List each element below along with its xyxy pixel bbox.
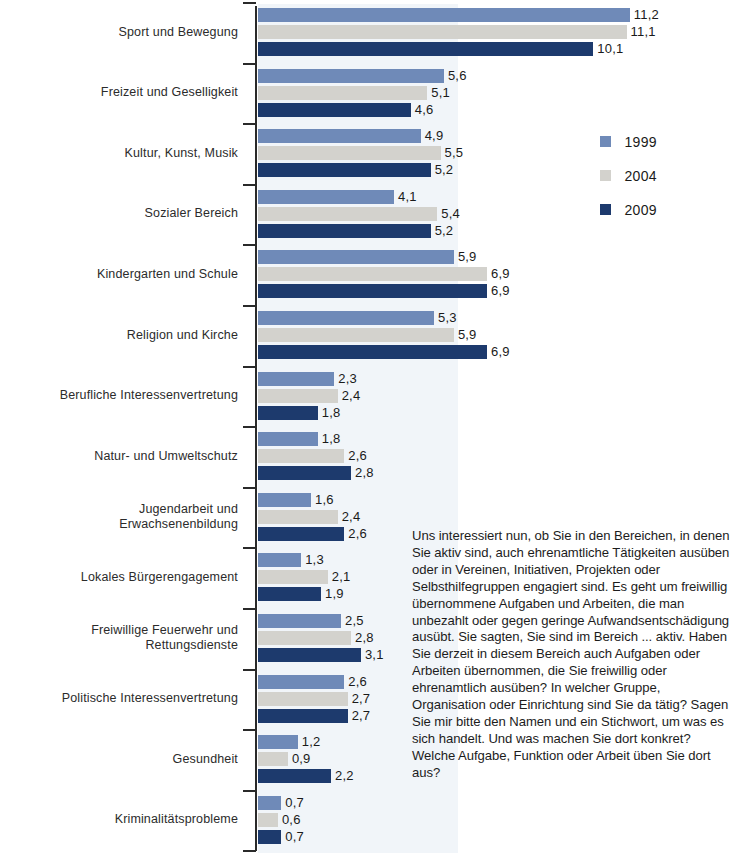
bar-2004[interactable] bbox=[258, 328, 454, 342]
bar-1999[interactable] bbox=[258, 190, 394, 204]
category-label: Kultur, Kunst, Musik bbox=[0, 146, 238, 161]
bar-line: 0,7 bbox=[258, 796, 304, 810]
bar-2009[interactable] bbox=[258, 587, 321, 601]
bar-2004[interactable] bbox=[258, 631, 351, 645]
bar-2004[interactable] bbox=[258, 25, 627, 39]
bar-value-label: 5,2 bbox=[431, 224, 454, 238]
bar-2009[interactable] bbox=[258, 103, 411, 117]
bar-line: 2,1 bbox=[258, 570, 350, 584]
bar-line: 6,9 bbox=[258, 284, 510, 298]
bar-value-label: 2,7 bbox=[348, 709, 371, 723]
bar-value-label: 5,9 bbox=[454, 328, 477, 342]
bar-value-label: 2,6 bbox=[344, 675, 367, 689]
bar-1999[interactable] bbox=[258, 675, 344, 689]
bar-2004[interactable] bbox=[258, 752, 288, 766]
bar-value-label: 2,3 bbox=[334, 372, 357, 386]
bar-line: 5,9 bbox=[258, 328, 510, 342]
legend-label-2009: 2009 bbox=[624, 202, 656, 218]
bar-group: 1,62,42,6 bbox=[258, 493, 367, 544]
axis-tick bbox=[243, 669, 256, 671]
legend-item-2004[interactable]: 2004 bbox=[600, 166, 657, 200]
bar-2004[interactable] bbox=[258, 207, 437, 221]
legend-label-1999: 1999 bbox=[624, 134, 656, 150]
bar-value-label: 2,6 bbox=[344, 527, 367, 541]
bar-line: 2,7 bbox=[258, 709, 370, 723]
bar-value-label: 5,3 bbox=[434, 311, 457, 325]
bar-value-label: 1,3 bbox=[301, 553, 324, 567]
bar-1999[interactable] bbox=[258, 432, 318, 446]
bar-group: 5,65,14,6 bbox=[258, 69, 467, 120]
bar-2004[interactable] bbox=[258, 570, 328, 584]
bar-line: 5,2 bbox=[258, 224, 460, 238]
axis-tick bbox=[243, 184, 256, 186]
bar-2009[interactable] bbox=[258, 224, 431, 238]
bar-group: 11,211,110,1 bbox=[258, 8, 659, 59]
bar-2004[interactable] bbox=[258, 146, 441, 160]
bar-2009[interactable] bbox=[258, 163, 431, 177]
bar-1999[interactable] bbox=[258, 250, 454, 264]
bar-value-label: 0,9 bbox=[288, 752, 311, 766]
category-label: Sozialer Bereich bbox=[0, 206, 238, 221]
category-label-line: Sport und Bewegung bbox=[0, 25, 238, 40]
bar-value-label: 4,1 bbox=[394, 190, 417, 204]
bar-line: 0,7 bbox=[258, 830, 304, 844]
bar-value-label: 0,6 bbox=[278, 813, 301, 827]
bar-line: 2,4 bbox=[258, 510, 367, 524]
bar-2009[interactable] bbox=[258, 466, 351, 480]
category-label-line: Berufliche Interessenvertretung bbox=[0, 388, 238, 403]
bar-group: 2,62,72,7 bbox=[258, 675, 370, 726]
bar-1999[interactable] bbox=[258, 553, 301, 567]
bar-group: 5,35,96,9 bbox=[258, 311, 510, 362]
bar-value-label: 5,2 bbox=[431, 163, 454, 177]
category-label-line: Freiwillige Feuerwehr und bbox=[0, 623, 238, 638]
bar-2009[interactable] bbox=[258, 345, 487, 359]
bar-2009[interactable] bbox=[258, 709, 348, 723]
bar-1999[interactable] bbox=[258, 129, 421, 143]
legend-item-2009[interactable]: 2009 bbox=[600, 200, 657, 234]
bar-2004[interactable] bbox=[258, 692, 348, 706]
axis-tick bbox=[243, 547, 256, 549]
bar-group: 2,32,41,8 bbox=[258, 372, 360, 423]
bar-line: 4,9 bbox=[258, 129, 463, 143]
bar-1999[interactable] bbox=[258, 614, 341, 628]
axis-tick bbox=[243, 790, 256, 792]
bar-1999[interactable] bbox=[258, 493, 311, 507]
bar-1999[interactable] bbox=[258, 796, 281, 810]
bar-2004[interactable] bbox=[258, 813, 278, 827]
bar-line: 2,6 bbox=[258, 449, 374, 463]
bar-2004[interactable] bbox=[258, 86, 427, 100]
bar-2004[interactable] bbox=[258, 510, 338, 524]
bar-line: 0,6 bbox=[258, 813, 304, 827]
bar-line: 1,9 bbox=[258, 587, 350, 601]
bar-1999[interactable] bbox=[258, 311, 434, 325]
bar-line: 5,3 bbox=[258, 311, 510, 325]
bar-value-label: 1,6 bbox=[311, 493, 334, 507]
category-label-line: Jugendarbeit und bbox=[0, 502, 238, 517]
bar-1999[interactable] bbox=[258, 735, 298, 749]
bar-2004[interactable] bbox=[258, 449, 344, 463]
bar-value-label: 5,9 bbox=[454, 250, 477, 264]
bar-2009[interactable] bbox=[258, 284, 487, 298]
bar-2009[interactable] bbox=[258, 769, 331, 783]
bar-2004[interactable] bbox=[258, 267, 487, 281]
bar-1999[interactable] bbox=[258, 8, 630, 22]
bar-2009[interactable] bbox=[258, 830, 281, 844]
category-label-line: Politische Interessenvertretung bbox=[0, 691, 238, 706]
bar-value-label: 1,8 bbox=[318, 432, 341, 446]
legend-swatch-2009 bbox=[600, 204, 611, 215]
bar-1999[interactable] bbox=[258, 372, 334, 386]
bar-2009[interactable] bbox=[258, 42, 593, 56]
bar-2009[interactable] bbox=[258, 406, 318, 420]
bar-2009[interactable] bbox=[258, 648, 361, 662]
axis-tick bbox=[243, 487, 256, 489]
bar-1999[interactable] bbox=[258, 69, 444, 83]
bar-value-label: 5,4 bbox=[437, 207, 460, 221]
bar-value-label: 0,7 bbox=[281, 830, 304, 844]
bar-2009[interactable] bbox=[258, 527, 344, 541]
bar-value-label: 3,1 bbox=[361, 648, 384, 662]
bar-value-label: 6,9 bbox=[487, 284, 510, 298]
legend-item-1999[interactable]: 1999 bbox=[600, 132, 657, 166]
axis-tick bbox=[243, 366, 256, 368]
bar-2004[interactable] bbox=[258, 389, 338, 403]
category-label-line: Kindergarten und Schule bbox=[0, 267, 238, 282]
